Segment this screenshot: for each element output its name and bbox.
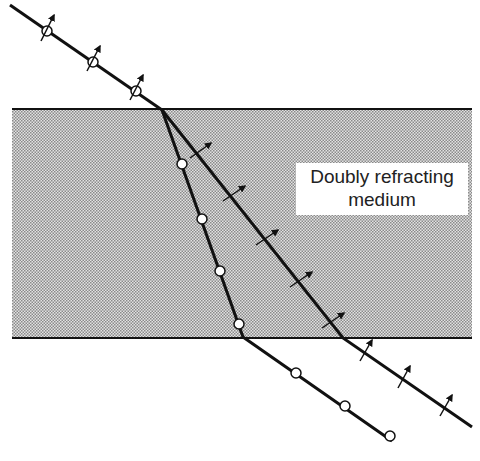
doubly-refracting-medium (12, 109, 472, 338)
medium-label-line2: medium (296, 188, 468, 211)
incident-ray (10, 5, 162, 110)
unpolarized-marker (41, 15, 54, 41)
medium-label-line1: Doubly refracting (296, 165, 468, 188)
medium-label: Doubly refracting medium (296, 163, 468, 215)
double-refraction-diagram (0, 0, 480, 461)
